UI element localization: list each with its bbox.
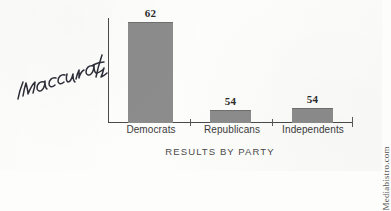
x-axis-title: RESULTS BY PARTY: [150, 146, 290, 157]
bar-republicans: [210, 110, 251, 123]
category-label-republicans: Republicans: [192, 124, 272, 135]
axis-tick-mark: [190, 119, 191, 126]
category-label-independents: Independents: [273, 124, 353, 135]
bar-value-label-republicans: 54: [208, 95, 253, 107]
y-axis-line: [108, 18, 109, 123]
bar-value-label-democrats: 62: [128, 7, 173, 19]
bar-value-label-independents: 54: [290, 93, 335, 105]
bar-democrats: [128, 22, 173, 123]
bar-independents: [292, 108, 333, 123]
source-credit: Mediabistro.com: [381, 146, 391, 210]
category-label-democrats: Democrats: [112, 124, 190, 135]
